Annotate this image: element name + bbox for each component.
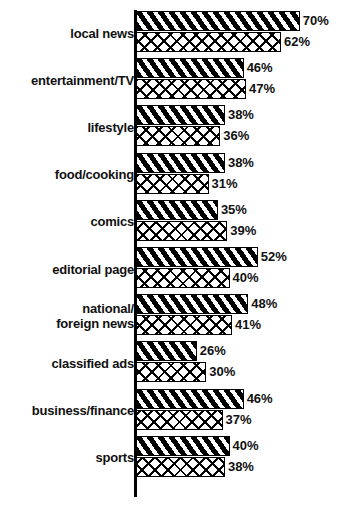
bar-value-label: 62% — [284, 32, 310, 52]
bar-group: food/cooking38%31% — [0, 153, 344, 197]
bar-area: 46%37% — [136, 389, 344, 433]
bar-group: entertainment/TV46%47% — [0, 58, 344, 102]
bar-value-label: 70% — [303, 11, 329, 31]
category-label: local news — [0, 11, 136, 55]
bar-area: 52%40% — [136, 247, 344, 291]
chart-title — [0, 0, 344, 10]
bar-series-2 — [136, 126, 220, 146]
category-label: lifestyle — [0, 105, 136, 149]
bar-group: lifestyle38%36% — [0, 105, 344, 149]
category-label: business/finance — [0, 389, 136, 433]
bar-series-2 — [136, 221, 227, 241]
bar-value-label: 37% — [226, 410, 252, 430]
bar-value-label: 40% — [233, 436, 259, 456]
bar-value-label: 35% — [221, 200, 247, 220]
bar-series-1 — [136, 294, 248, 314]
bar-series-1 — [136, 389, 244, 409]
category-label-line: entertainment/TV — [31, 73, 134, 88]
bar-series-1 — [136, 247, 258, 267]
category-label-line: lifestyle — [87, 120, 134, 135]
bar-series-1 — [136, 11, 300, 31]
category-label-line: sports — [95, 450, 134, 465]
bar-series-2 — [136, 32, 281, 52]
bar-group: local news70%62% — [0, 11, 344, 55]
bar-series-2 — [136, 174, 209, 194]
bar-value-label: 26% — [200, 341, 226, 361]
bar-value-label: 41% — [235, 315, 261, 335]
bar-value-label: 38% — [228, 153, 254, 173]
category-label: national/foreign news — [0, 294, 136, 338]
category-label: comics — [0, 200, 136, 244]
bar-series-2 — [136, 268, 230, 288]
bar-value-label: 39% — [230, 221, 256, 241]
bar-value-label: 40% — [233, 268, 259, 288]
bar-value-label: 47% — [249, 79, 275, 99]
bar-area: 40%38% — [136, 436, 344, 480]
category-label: food/cooking — [0, 153, 136, 197]
bar-area: 35%39% — [136, 200, 344, 244]
bar-area: 38%36% — [136, 105, 344, 149]
category-label-line: food/cooking — [55, 167, 134, 182]
category-label-line: editorial page — [52, 262, 134, 277]
bar-area: 38%31% — [136, 153, 344, 197]
bar-area: 26%30% — [136, 341, 344, 385]
category-label-line: national/ — [82, 301, 134, 316]
bar-value-label: 38% — [228, 457, 254, 477]
bar-value-label: 36% — [223, 126, 249, 146]
bar-group: business/finance46%37% — [0, 389, 344, 433]
bar-group: sports40%38% — [0, 436, 344, 480]
bar-value-label: 46% — [247, 389, 273, 409]
bar-group: classified ads26%30% — [0, 341, 344, 385]
category-label-line: comics — [90, 214, 134, 229]
bar-value-label: 30% — [209, 362, 235, 382]
category-label-line: business/finance — [32, 403, 134, 418]
bar-series-1 — [136, 200, 218, 220]
bar-value-label: 31% — [212, 174, 238, 194]
bar-group: comics35%39% — [0, 200, 344, 244]
bar-series-1 — [136, 58, 244, 78]
bar-series-2 — [136, 315, 232, 335]
bar-series-1 — [136, 105, 225, 125]
bar-series-2 — [136, 410, 223, 430]
category-label-line: local news — [70, 26, 134, 41]
bar-series-1 — [136, 153, 225, 173]
bar-value-label: 38% — [228, 105, 254, 125]
bar-area: 70%62% — [136, 11, 344, 55]
category-label: editorial page — [0, 247, 136, 291]
bar-value-label: 52% — [261, 247, 287, 267]
bar-value-label: 46% — [247, 58, 273, 78]
bar-value-label: 48% — [251, 294, 277, 314]
bar-group: editorial page52%40% — [0, 247, 344, 291]
bar-series-2 — [136, 457, 225, 477]
category-label: sports — [0, 436, 136, 480]
bar-area: 48%41% — [136, 294, 344, 338]
category-label-line: classified ads — [52, 356, 134, 371]
bar-series-2 — [136, 362, 206, 382]
category-label: classified ads — [0, 341, 136, 385]
bar-series-1 — [136, 436, 230, 456]
bar-series-2 — [136, 79, 246, 99]
horizontal-bar-chart: local news70%62%entertainment/TV46%47%li… — [0, 0, 344, 508]
bar-series-1 — [136, 341, 197, 361]
bar-group: national/foreign news48%41% — [0, 294, 344, 338]
category-label-line: foreign news — [56, 316, 134, 331]
category-label: entertainment/TV — [0, 58, 136, 102]
bar-area: 46%47% — [136, 58, 344, 102]
